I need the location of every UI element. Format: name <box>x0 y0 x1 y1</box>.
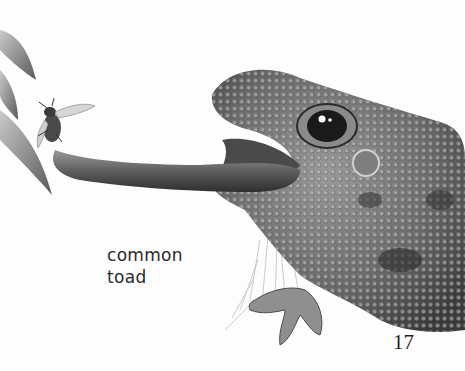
caption: common toad <box>107 244 183 288</box>
book-page: common toad 17 <box>0 0 465 371</box>
toad-illustration <box>0 0 465 371</box>
caption-line-2: toad <box>107 266 183 288</box>
page-number: 17 <box>393 330 414 355</box>
caption-line-1: common <box>107 244 183 266</box>
fly <box>37 98 95 148</box>
